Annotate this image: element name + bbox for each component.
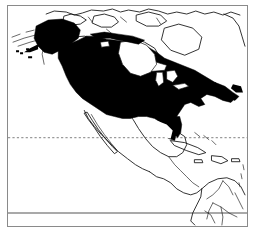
map-frame	[7, 5, 248, 227]
range-newfoundland	[231, 84, 243, 92]
range-layer	[16, 19, 243, 141]
gulf-of-california	[91, 114, 116, 149]
central-america-caribbean-side	[169, 157, 199, 187]
south-america-north-coast	[202, 178, 245, 195]
distribution-map-figure	[0, 0, 255, 232]
lesser-antilles	[239, 165, 244, 187]
bahamas	[195, 133, 216, 145]
amazon-basin-rivers	[207, 203, 237, 225]
great-slave-lake	[100, 41, 109, 47]
arctic-island-baffin	[162, 24, 202, 55]
range-florida	[174, 117, 182, 138]
puerto-rico	[232, 159, 240, 162]
jamaica	[195, 160, 203, 163]
map-canvas	[8, 6, 247, 226]
greenland-coast	[224, 14, 245, 46]
arctic-channels	[68, 17, 160, 34]
arctic-island-victoria	[92, 14, 118, 27]
arctic-archipelago	[46, 9, 240, 15]
orinoco-river	[207, 181, 233, 199]
cuba	[171, 141, 206, 155]
graticule	[8, 138, 247, 213]
arctic-island-ellesmere	[137, 12, 167, 26]
hispaniola	[212, 156, 228, 164]
baja-california	[84, 112, 117, 153]
